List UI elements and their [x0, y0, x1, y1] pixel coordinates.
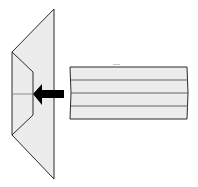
- diagram-canvas: [0, 0, 198, 187]
- funnel-cylinder-diagram: [0, 0, 198, 187]
- cylinder: [70, 65, 188, 120]
